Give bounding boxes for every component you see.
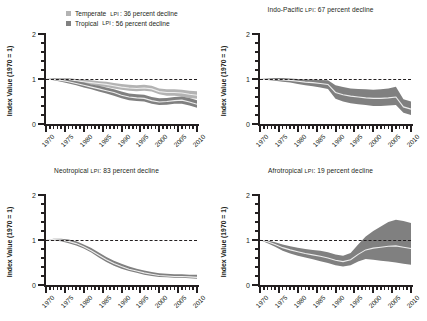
- x-tick-major: [196, 285, 198, 293]
- x-tick-minor: [181, 285, 183, 290]
- x-tick-minor: [79, 124, 81, 129]
- y-tick-major: [38, 239, 46, 241]
- legend-label-temperate: Temperate: [75, 10, 106, 17]
- x-tick-minor: [151, 285, 153, 290]
- x-tick-minor: [162, 124, 164, 129]
- panel-afrotropical: Afrotropical LPI: 19 percent decline Ind…: [214, 161, 427, 321]
- x-tick-minor: [361, 285, 363, 290]
- median-line: [46, 240, 197, 278]
- x-tick-minor: [98, 124, 100, 129]
- y-tick-minor: [255, 230, 260, 231]
- x-tick-minor: [293, 285, 295, 290]
- y-tick-minor: [41, 60, 46, 61]
- legend-lpi-temperate: LPI: [110, 11, 119, 17]
- x-tick-label: 2005: [172, 294, 187, 309]
- y-tick-minor: [41, 266, 46, 267]
- x-tick-minor: [339, 124, 341, 129]
- y-tick-minor: [41, 87, 46, 88]
- x-tick-minor: [72, 124, 74, 129]
- x-tick-minor: [282, 285, 284, 290]
- x-tick-major: [372, 124, 374, 132]
- confidence-band: [260, 78, 411, 115]
- x-tick-label: 1975: [59, 133, 74, 148]
- x-tick-label: 1990: [330, 294, 345, 309]
- x-tick-label: 1980: [78, 294, 93, 309]
- x-tick-minor: [289, 285, 291, 290]
- x-tick-minor: [91, 285, 93, 290]
- panel-title-main: Neotropical: [54, 167, 90, 174]
- x-tick-minor: [399, 124, 401, 129]
- x-tick-label: 1975: [273, 133, 288, 148]
- x-tick-major: [410, 285, 412, 293]
- x-tick-major: [83, 285, 85, 293]
- y-tick-major: [38, 78, 46, 80]
- x-tick-minor: [147, 124, 149, 129]
- panel-title-main: Afrotropical: [268, 167, 304, 174]
- panel-neotropical: Neotropical LPI: 83 percent decline Inde…: [0, 161, 213, 321]
- x-tick-minor: [274, 124, 276, 129]
- x-tick-major: [259, 124, 261, 132]
- x-tick-minor: [331, 285, 333, 290]
- y-tick-minor: [255, 42, 260, 43]
- x-tick-minor: [312, 285, 314, 290]
- x-tick-minor: [147, 285, 149, 290]
- x-tick-major: [316, 285, 318, 293]
- y-tick-label: 0: [32, 282, 36, 289]
- x-tick-label: 2010: [405, 294, 420, 309]
- x-tick-minor: [357, 124, 359, 129]
- x-tick-major: [278, 285, 280, 293]
- x-tick-major: [391, 124, 393, 132]
- x-tick-label: 1985: [311, 133, 326, 148]
- x-tick-minor: [395, 124, 397, 129]
- panel-title-detail: : 83 percent decline: [99, 167, 159, 174]
- lpi-figure: Temperate LPI : 36 percent decline Tropi…: [0, 0, 427, 321]
- x-tick-minor: [151, 124, 153, 129]
- x-tick-minor: [282, 124, 284, 129]
- x-tick-minor: [136, 285, 138, 290]
- y-axis-label: Index Value (1970 = 1): [220, 197, 227, 287]
- x-tick-major: [121, 285, 123, 293]
- y-tick-label: 0: [246, 121, 250, 128]
- y-tick-minor: [41, 69, 46, 70]
- panel-title-detail: : 67 percent decline: [314, 6, 374, 13]
- x-tick-minor: [170, 124, 172, 129]
- y-tick-minor: [255, 60, 260, 61]
- x-tick-label: 1985: [311, 294, 326, 309]
- x-tick-minor: [113, 285, 115, 290]
- x-tick-major: [353, 285, 355, 293]
- y-tick-label: 1: [246, 76, 250, 83]
- x-tick-major: [158, 285, 160, 293]
- x-tick-minor: [286, 285, 288, 290]
- x-tick-minor: [117, 285, 119, 290]
- x-tick-minor: [57, 124, 59, 129]
- y-tick-major: [252, 194, 260, 196]
- x-tick-minor: [403, 124, 405, 129]
- x-tick-major: [121, 124, 123, 132]
- x-tick-label: 1975: [273, 294, 288, 309]
- x-tick-minor: [136, 124, 138, 129]
- x-tick-minor: [143, 285, 145, 290]
- x-tick-label: 1970: [40, 294, 55, 309]
- legend: Temperate LPI : 36 percent decline Tropi…: [66, 10, 178, 27]
- x-tick-minor: [263, 285, 265, 290]
- x-tick-major: [410, 124, 412, 132]
- x-tick-minor: [162, 285, 164, 290]
- x-tick-label: 1995: [135, 133, 150, 148]
- plot-area-afrotropical: 012197019751980198519901995200020052010: [260, 195, 411, 285]
- legend-item-temperate: Temperate LPI : 36 percent decline: [66, 10, 178, 17]
- x-tick-minor: [49, 285, 51, 290]
- x-tick-minor: [117, 124, 119, 129]
- plot-area-indo-pacific: 012197019751980198519901995200020052010: [260, 34, 411, 124]
- x-tick-minor: [87, 124, 89, 129]
- x-tick-minor: [350, 285, 352, 290]
- x-tick-minor: [346, 124, 348, 129]
- x-tick-minor: [361, 124, 363, 129]
- x-tick-minor: [189, 285, 191, 290]
- x-tick-minor: [289, 124, 291, 129]
- panel-title-lpi: LPI: [305, 7, 314, 13]
- legend-item-tropical: Tropical LPI : 56 percent decline: [66, 20, 178, 27]
- x-tick-label: 1980: [292, 294, 307, 309]
- x-tick-minor: [68, 285, 70, 290]
- x-tick-label: 1970: [254, 133, 269, 148]
- x-tick-minor: [327, 124, 329, 129]
